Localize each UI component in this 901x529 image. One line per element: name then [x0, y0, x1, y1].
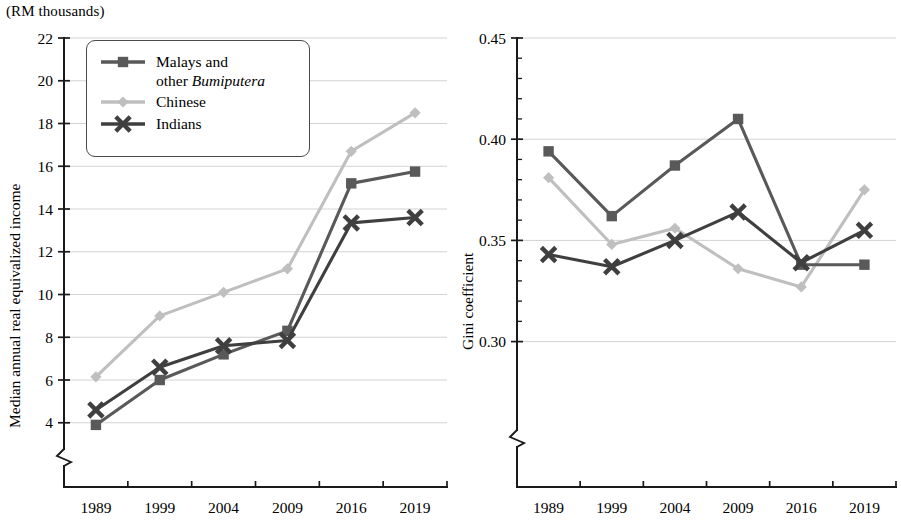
legend-swatch-diamond-icon [99, 92, 147, 112]
y-tick-label: 0.45 [479, 30, 506, 47]
y-tick-label: 14 [38, 201, 54, 218]
series-diamond [543, 172, 870, 292]
chart-panel-income: Median annual real equivalized income 46… [0, 0, 455, 529]
y-tick-label: 18 [38, 115, 54, 132]
legend-item-label: Indians [156, 114, 202, 133]
data-point [218, 287, 229, 298]
x-tick-label: 1989 [80, 499, 111, 516]
y-tick-label: 20 [38, 72, 54, 89]
legend-marker [117, 96, 128, 107]
y-tick-label: 22 [38, 30, 54, 47]
data-point [670, 160, 680, 170]
series-x [89, 210, 423, 417]
y-tick-label: 10 [38, 286, 54, 303]
data-point [410, 166, 420, 176]
x-tick-label: 1999 [596, 499, 627, 516]
y-tick-label: 6 [45, 372, 53, 389]
legend: Malays and other BumiputeraChineseIndian… [86, 40, 310, 157]
y-axis-break-icon [57, 449, 71, 466]
y-axis-ticks: 46810121416182022 [38, 30, 71, 432]
data-point [89, 403, 103, 417]
legend-item-label: Malays and other Bumiputera [156, 52, 265, 90]
series-square [91, 166, 421, 430]
y-tick-label: 4 [45, 414, 53, 431]
x-tick-label: 2019 [849, 499, 880, 516]
series-square [543, 114, 869, 270]
legend-item-label: Chinese [156, 92, 206, 111]
x-tick-label: 2016 [786, 499, 817, 516]
y-tick-label: 16 [38, 158, 54, 175]
data-point [607, 211, 617, 221]
data-point [733, 114, 743, 124]
legend-item: Indians [99, 114, 299, 134]
x-tick-label: 2019 [400, 499, 431, 516]
x-tick-label: 2009 [272, 499, 303, 516]
data-point [731, 205, 745, 219]
data-point [91, 420, 101, 430]
x-tick-label: 2009 [723, 499, 754, 516]
axes [510, 38, 896, 487]
data-point [155, 375, 165, 385]
legend-swatch-x-icon [99, 114, 147, 134]
x-tick-label: 1999 [144, 499, 175, 516]
y-tick-label: 0.40 [479, 131, 506, 148]
x-tick-label: 1989 [533, 499, 564, 516]
x-tick-label: 2004 [659, 499, 690, 516]
figure-root: (RM thousands) Median annual real equiva… [0, 0, 901, 529]
legend-marker [118, 57, 128, 67]
legend-swatch-square-icon [99, 52, 147, 72]
data-point [857, 223, 871, 237]
y-tick-label: 8 [45, 329, 53, 346]
y-axis-break-icon [510, 430, 524, 447]
gridlines [517, 38, 896, 342]
data-point [153, 360, 167, 374]
gini-plot: 0.300.350.400.45198919992004200920162019 [455, 0, 901, 529]
x-tick-label: 2004 [208, 499, 239, 516]
data-point [282, 263, 293, 274]
data-point [346, 178, 356, 188]
y-tick-label: 0.30 [479, 333, 506, 350]
y-tick-label: 12 [38, 243, 54, 260]
legend-item: Chinese [99, 92, 299, 112]
data-point [543, 146, 553, 156]
chart-panel-gini: Gini coefficient 0.300.350.400.451989199… [455, 0, 901, 529]
data-point [859, 259, 869, 269]
x-tick-label: 2016 [336, 499, 367, 516]
legend-item: Malays and other Bumiputera [99, 52, 299, 90]
y-tick-label: 0.35 [479, 232, 506, 249]
